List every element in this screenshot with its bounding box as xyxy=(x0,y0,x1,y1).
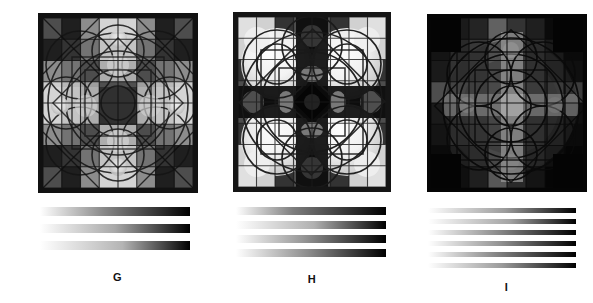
mandala-pattern-g xyxy=(38,13,198,193)
panel-label-i: I xyxy=(427,282,587,293)
panel-h: H xyxy=(200,0,396,303)
mandala-h-canvas xyxy=(233,12,391,192)
gradient-ramp xyxy=(40,224,190,233)
gradient-ramp xyxy=(428,219,576,224)
mandala-pattern-i xyxy=(427,14,587,192)
gradient-ramp xyxy=(236,249,386,257)
gradient-ramps-g xyxy=(40,207,190,250)
gradient-ramps-h xyxy=(236,207,386,257)
mandala-pattern-h xyxy=(233,12,391,192)
gradient-ramp xyxy=(236,207,386,215)
panel-label-g: G xyxy=(38,272,198,283)
figure-root: G xyxy=(0,0,593,303)
panel-g: G xyxy=(0,0,200,303)
panel-label-h: H xyxy=(233,274,391,285)
mandala-i-canvas xyxy=(427,14,587,192)
mandala-g-canvas xyxy=(38,13,198,193)
gradient-ramp xyxy=(236,235,386,243)
gradient-ramp xyxy=(428,230,576,235)
panel-i: I xyxy=(396,0,593,303)
gradient-ramp xyxy=(40,207,190,216)
gradient-ramp xyxy=(428,252,576,257)
gradient-ramps-i xyxy=(428,208,576,268)
gradient-ramp xyxy=(428,263,576,268)
gradient-ramp xyxy=(428,241,576,246)
gradient-ramp xyxy=(236,221,386,229)
gradient-ramp xyxy=(428,208,576,213)
gradient-ramp xyxy=(40,241,190,250)
